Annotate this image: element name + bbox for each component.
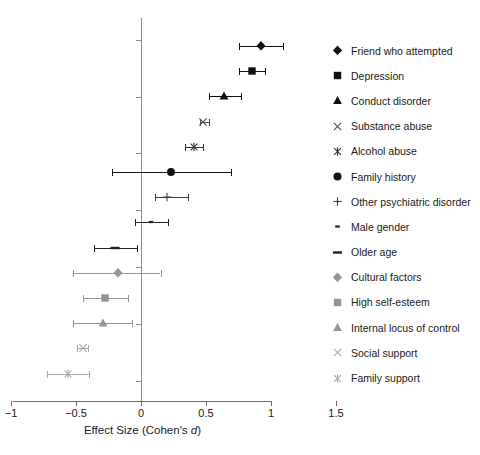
ci-cap-high [137,245,138,252]
x-tick [271,401,272,406]
asterisk-icon [330,145,344,158]
legend-item-label: Conduct disorder [351,95,431,107]
ci-cap-high [168,219,169,226]
point-marker [111,266,124,279]
x-axis-title-symbol: d [191,424,197,436]
x-tick [141,401,142,406]
x-tick [336,401,337,406]
legend-item[interactable]: Alcohol abuse [330,139,480,164]
legend-item-label: Other psychiatric disorder [351,196,471,208]
x-tick-label: 0.5 [198,407,213,419]
plot-area: −1−0.500.511.5 Effect Size (Cohen's d) [0,0,320,455]
point-marker [218,90,231,103]
forest-row [0,163,320,181]
point-marker [76,342,89,355]
legend-item[interactable]: High self-esteem [330,290,480,315]
legend-item[interactable]: Cultural factors [330,265,480,290]
ci-cap-high [203,144,204,151]
plus-icon [330,195,344,208]
legend-item[interactable]: Family history [330,164,480,189]
forest-row [0,239,320,257]
legend-item-label: Alcohol abuse [351,145,417,157]
y-tick [136,210,141,211]
forest-row [0,87,320,105]
ci-cap-low [47,371,48,378]
legend-item[interactable]: Conduct disorder [330,88,480,113]
legend-item-label: Cultural factors [351,271,422,283]
legend-item[interactable]: Substance abuse [330,114,480,139]
x-tick-label: −0.5 [65,407,87,419]
asterisk-icon [330,372,344,385]
legend-item[interactable]: Other psychiatric disorder [330,189,480,214]
ci-cap-high [132,320,133,327]
ci-cap-low [135,219,136,226]
ci-cap-low [155,194,156,201]
legend-item-label: Male gender [351,221,409,233]
forest-row [0,188,320,206]
forest-row [0,264,320,282]
legend-item-label: Internal locus of control [351,322,460,334]
x-icon [330,120,344,133]
ci-cap-low [73,270,74,277]
legend-item[interactable]: Depression [330,63,480,88]
point-marker [109,241,122,254]
forest-row [0,289,320,307]
point-marker [254,40,267,53]
forest-row [0,339,320,357]
point-marker [98,292,111,305]
point-marker [145,216,158,229]
point-marker [245,65,258,78]
ci-cap-high [265,68,266,75]
diamond-icon [330,44,344,57]
point-marker [188,140,201,153]
ci-cap-low [185,144,186,151]
point-marker [164,166,177,179]
triangle-icon [330,94,344,107]
legend-item[interactable]: Social support [330,340,480,365]
ci-cap-low [239,43,240,50]
ci-cap-low [239,68,240,75]
point-marker [161,191,174,204]
forest-row [0,314,320,332]
x-tick [206,401,207,406]
legend-item-label: Friend who attempted [351,45,453,57]
x-tick-label: 0 [138,407,144,419]
forest-row [0,37,320,55]
forest-row [0,62,320,80]
triangle-icon [330,321,344,334]
legend-item-label: Substance abuse [351,120,432,132]
ci-cap-low [209,93,210,100]
dash-small-icon [330,220,344,233]
square-icon [330,296,344,309]
diamond-icon [330,271,344,284]
x-tick [76,401,77,406]
legend-item[interactable]: Older age [330,240,480,265]
legend-item[interactable]: Internal locus of control [330,315,480,340]
legend-item[interactable]: Family support [330,365,480,390]
x-axis-line [13,401,272,402]
forest-row [0,365,320,383]
ci-cap-low [83,295,84,302]
legend-item[interactable]: Male gender [330,214,480,239]
forest-row [0,138,320,156]
legend-item[interactable]: Friend who attempted [330,38,480,63]
point-marker [97,317,110,330]
legend-item-label: Family history [351,171,416,183]
legend-item-label: Social support [351,347,418,359]
x-tick-label: 1 [268,407,274,419]
ci-cap-high [283,43,284,50]
forest-row [0,213,320,231]
legend-item-label: Depression [351,70,404,82]
legend-item-label: Older age [351,246,397,258]
legend: Friend who attemptedDepressionConduct di… [330,38,480,391]
point-marker [197,115,210,128]
ci-cap-high [188,194,189,201]
forest-row [0,113,320,131]
ci-cap-high [128,295,129,302]
x-tick [11,401,12,406]
circle-icon [330,170,344,183]
ci-cap-high [89,371,90,378]
square-icon [330,69,344,82]
dash-large-icon [330,246,344,259]
ci-cap-low [73,320,74,327]
